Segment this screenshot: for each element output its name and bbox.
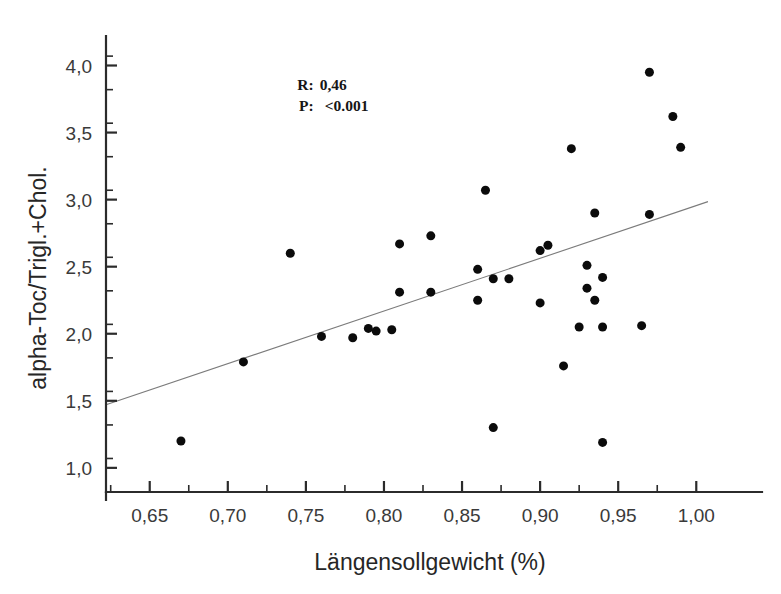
- y-tick-label: 4,0: [66, 56, 92, 77]
- plot-canvas: 1,01,52,02,53,03,54,00,650,700,750,800,8…: [0, 0, 781, 594]
- data-point: [504, 274, 513, 283]
- y-axis-title: alpha-Toc/Trigl.+Chol.: [25, 166, 51, 390]
- data-point: [598, 273, 607, 282]
- regression-line-segment: [106, 202, 708, 405]
- data-point: [473, 296, 482, 305]
- data-point: [176, 437, 185, 446]
- data-point: [645, 68, 654, 77]
- x-axis-title: Längensollgewicht (%): [314, 549, 545, 575]
- scatter-plot-figure: 1,01,52,02,53,03,54,00,650,700,750,800,8…: [0, 0, 781, 594]
- x-tick-label: 0,95: [600, 505, 637, 526]
- x-tick-label: 0,80: [365, 505, 402, 526]
- data-points-group: [176, 68, 685, 447]
- data-point: [598, 323, 607, 332]
- data-point: [676, 143, 685, 152]
- statistics-annotations: R: 0,46 P: <0.001: [297, 76, 368, 114]
- x-tick-label: 0,90: [522, 505, 559, 526]
- data-point: [317, 332, 326, 341]
- data-point: [598, 438, 607, 447]
- data-point: [239, 357, 248, 366]
- data-point: [426, 231, 435, 240]
- data-point: [582, 284, 591, 293]
- data-point: [567, 144, 576, 153]
- data-point: [426, 288, 435, 297]
- y-tick-label: 1,5: [66, 391, 92, 412]
- y-tick-label: 2,5: [66, 257, 92, 278]
- data-point: [395, 288, 404, 297]
- data-point: [582, 261, 591, 270]
- data-point: [536, 298, 545, 307]
- axes-group: [106, 36, 762, 501]
- data-point: [489, 423, 498, 432]
- data-point: [387, 325, 396, 334]
- data-point: [489, 274, 498, 283]
- data-point: [395, 239, 404, 248]
- data-point: [668, 112, 677, 121]
- data-point: [590, 209, 599, 218]
- data-point: [645, 210, 654, 219]
- y-tick-label: 3,5: [66, 123, 92, 144]
- data-point: [536, 246, 545, 255]
- data-point: [575, 323, 584, 332]
- y-tick-label: 1,0: [66, 458, 92, 479]
- data-point: [473, 265, 482, 274]
- data-point: [590, 296, 599, 305]
- data-point: [637, 321, 646, 330]
- data-point: [372, 327, 381, 336]
- x-tick-label: 0,75: [287, 505, 324, 526]
- p-stat-value: <0.001: [325, 97, 369, 114]
- data-point: [364, 324, 373, 333]
- tick-labels-group: 1,01,52,02,53,03,54,00,650,700,750,800,8…: [66, 56, 715, 526]
- r-stat-value: 0,46: [320, 76, 347, 93]
- data-point: [481, 186, 490, 195]
- x-tick-label: 0,65: [131, 505, 168, 526]
- regression-line: [106, 202, 708, 405]
- x-tick-label: 0,85: [444, 505, 481, 526]
- y-tick-label: 2,0: [66, 324, 92, 345]
- data-point: [559, 361, 568, 370]
- data-point: [286, 249, 295, 258]
- data-point: [543, 241, 552, 250]
- x-tick-label: 0,70: [209, 505, 246, 526]
- p-stat-label: P:: [299, 97, 314, 114]
- r-stat-label: R:: [297, 76, 313, 93]
- data-point: [348, 333, 357, 342]
- x-tick-label: 1,00: [678, 505, 715, 526]
- y-tick-label: 3,0: [66, 190, 92, 211]
